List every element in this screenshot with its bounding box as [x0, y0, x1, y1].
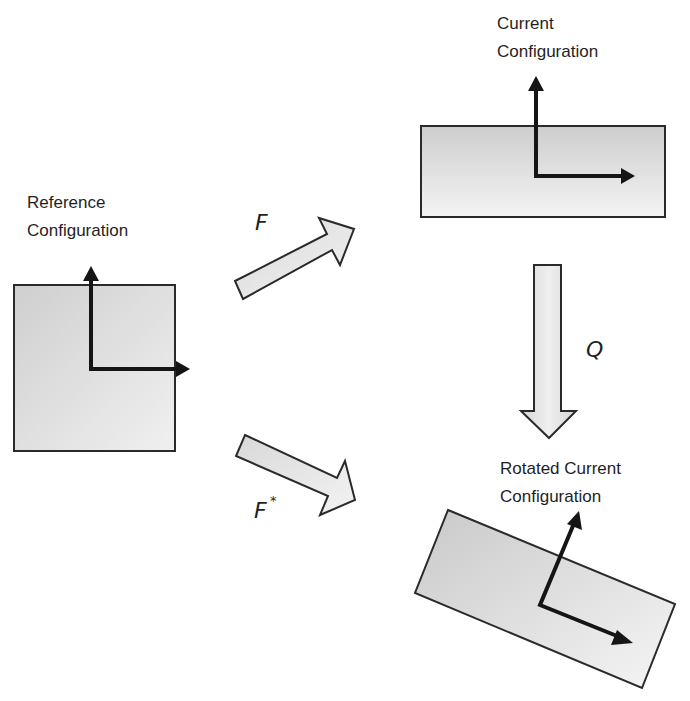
current-rectangle	[421, 126, 665, 217]
reference-label-line2: Configuration	[27, 221, 128, 240]
mapping-Q: Q	[521, 265, 603, 438]
rotated-current-configuration: Rotated Current Configuration	[415, 459, 675, 688]
rotated-rectangle	[415, 510, 675, 688]
current-configuration: Current Configuration	[421, 14, 665, 217]
reference-configuration: Reference Configuration	[14, 193, 190, 451]
mapping-F: F	[235, 210, 354, 299]
F-star-label: F	[254, 498, 267, 523]
F-label: F	[255, 210, 268, 235]
mapping-F-star: F *	[236, 435, 355, 523]
rotated-label-line1: Rotated Current	[500, 459, 621, 478]
Q-label: Q	[586, 337, 603, 362]
Q-arrow-icon	[521, 265, 576, 438]
reference-label-line1: Reference	[27, 193, 105, 212]
F-arrow-icon	[235, 218, 354, 299]
configuration-diagram: Reference Configuration Current Configur…	[0, 0, 690, 701]
rotated-label-line2: Configuration	[500, 487, 601, 506]
current-label-line2: Configuration	[497, 42, 598, 61]
F-star-superscript: *	[270, 493, 277, 508]
current-label-line1: Current	[497, 14, 554, 33]
